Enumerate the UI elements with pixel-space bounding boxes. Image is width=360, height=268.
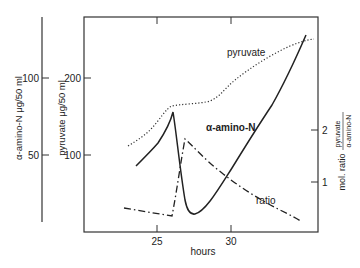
amino-tick-50: 50: [28, 150, 40, 161]
amino-axis-label: α-amino-N μg/50 ml: [13, 76, 24, 160]
annotation-pyruvate: pyruvate: [227, 47, 266, 58]
amino-tick-100: 100: [22, 73, 39, 84]
plot-frame: [84, 17, 318, 232]
x-axis-label: hours: [190, 246, 215, 257]
ratio-axis-label: mol. ratio: [337, 153, 347, 190]
ratio-axis: 2 1 mol. ratio pyruvate α-amino-N: [311, 112, 352, 191]
pyruvate-axis: 200 100 pyruvate μg/50 ml: [56, 73, 91, 161]
pyruvate-axis-label: pyruvate μg/50 ml: [56, 80, 67, 156]
x-axis: 25 30 hours: [151, 225, 237, 257]
chart: 100 50 α-amino-N μg/50 ml 200 100 pyruva…: [0, 0, 360, 268]
ratio-axis-denominator: α-amino-N: [345, 115, 352, 148]
x-tick-25: 25: [151, 236, 163, 247]
x-tick-30: 30: [225, 236, 237, 247]
ratio-axis-numerator: pyruvate: [334, 120, 342, 147]
amino-axis: 100 50 α-amino-N μg/50 ml: [13, 17, 49, 222]
ratio-tick-2: 2: [322, 125, 328, 136]
annotation-ratio: ratio: [256, 195, 276, 206]
annotation-alpha-amino-n: α-amino-N: [206, 122, 255, 133]
ratio-tick-1: 1: [322, 177, 328, 188]
